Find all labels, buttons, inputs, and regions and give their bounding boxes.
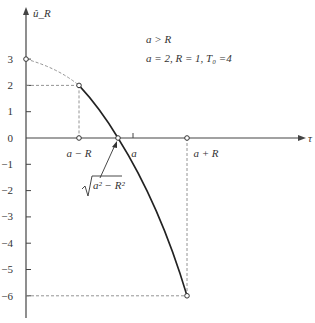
root-annotation: a² − R² [93,179,125,191]
guide-lines [26,59,187,296]
x-axis-arrow-icon [298,135,306,141]
y-tick-3: 3 [8,53,14,65]
data-points [24,57,190,298]
x-axis-label: τ [308,132,313,144]
y-tick-neg4: −4 [1,237,13,249]
x-label-a: a [131,147,137,159]
root-arrow-icon [112,141,117,148]
root-arrow-line [100,145,115,178]
point-zero-crossing [116,136,121,141]
y-tick-neg5: −5 [1,263,13,275]
diagram-canvas: 3 2 1 0 −1 −2 −3 −4 −5 −6 û_R τ a > R a … [0,0,315,323]
x-label-a-minus-r: a − R [66,147,91,159]
y-axis-arrow-icon [23,7,29,15]
y-tick-neg6: −6 [1,290,13,302]
x-label-a-plus-r: a + R [193,147,218,159]
y-ticks [26,59,133,296]
point-a-minus-r [77,136,82,141]
point-end [185,294,190,299]
y-tick-2: 2 [8,79,14,91]
condition-line-2: a = 2, R = 1, T₀ =4 [146,52,232,64]
y-tick-1: 1 [8,105,14,117]
dashed-extension-curve [26,59,79,85]
y-tick-neg2: −2 [1,184,13,196]
point-y-intercept [24,57,29,62]
y-tick-0: 0 [8,132,14,144]
y-axis-label: û_R [33,7,51,19]
point-start [77,83,82,88]
point-a-plus-r [185,136,190,141]
y-tick-neg3: −3 [1,210,13,222]
y-tick-neg1: −1 [1,158,13,170]
condition-line-1: a > R [146,33,171,45]
